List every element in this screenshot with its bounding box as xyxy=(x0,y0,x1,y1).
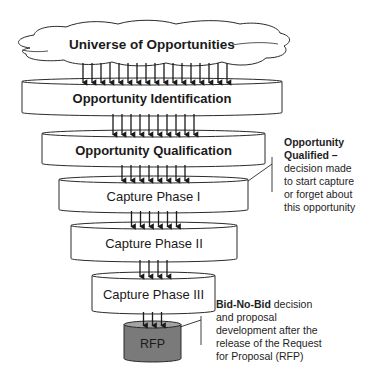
universe-cloud: Universe of Opportunities xyxy=(18,20,289,66)
stage-label: Capture Phase III xyxy=(103,287,204,302)
annotation-1-line-1: Opportunity xyxy=(284,136,344,148)
stage-top xyxy=(59,176,248,183)
annotation-2-line-3: development after the xyxy=(216,324,366,337)
annotation-opportunity-qualified: Opportunity Qualified – decision made to… xyxy=(284,136,368,214)
annotation-2-bold: Bid-No-Bid xyxy=(216,298,271,310)
annotation-1-line-2: Qualified – xyxy=(284,149,338,161)
stage-label: Capture Phase I xyxy=(107,189,201,204)
annotation-2-line-4: release of the Request xyxy=(216,337,366,350)
stage-opportunity-identification: Opportunity Identification xyxy=(22,78,282,116)
stage-label: Opportunity Qualification xyxy=(75,143,232,158)
annotation-bid-no-bid: Bid-No-Bid decision and proposal develop… xyxy=(216,298,366,363)
stage-label: RFP xyxy=(140,337,165,351)
annotation-1-line-3: decision made xyxy=(284,162,368,175)
cloud-label: Universe of Opportunities xyxy=(69,37,235,52)
annotation-1-line-5: or forget about xyxy=(284,188,368,201)
stage-top xyxy=(22,78,282,85)
stage-top xyxy=(92,272,215,279)
annotation-1-line-4: to start capture xyxy=(284,175,368,188)
annotation-2-line-5: for Proposal (RFP) xyxy=(216,350,366,363)
stage-label: Opportunity Identification xyxy=(73,91,232,106)
stage-capture-phase-ii: Capture Phase II xyxy=(71,222,237,262)
stage-capture-phase-iii: Capture Phase III xyxy=(92,272,215,314)
stage-top xyxy=(42,130,265,137)
annotation-2-line-1-rest: decision xyxy=(271,298,312,310)
annotation-1-line-6: this opportunity xyxy=(284,201,368,214)
stage-rfp: RFP xyxy=(124,321,181,362)
annotation-2-line-2: and proposal xyxy=(216,311,366,324)
stage-top xyxy=(71,222,237,229)
stage-opportunity-qualification: Opportunity Qualification xyxy=(42,130,265,167)
annotation-2-bracket xyxy=(180,316,201,345)
stage-capture-phase-i: Capture Phase I xyxy=(59,176,248,213)
stage-label: Capture Phase II xyxy=(105,236,203,251)
